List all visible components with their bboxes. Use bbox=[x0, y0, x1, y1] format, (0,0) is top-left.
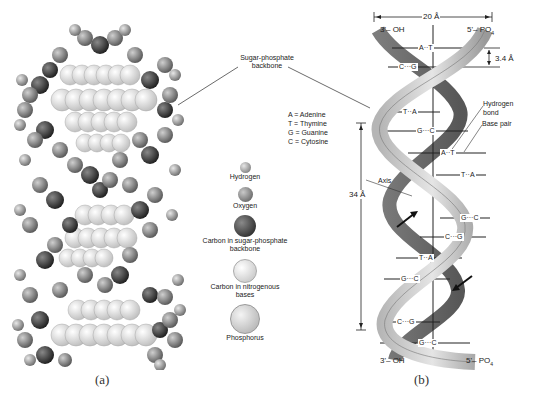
top-right-end-text: 5'– PO bbox=[467, 25, 491, 34]
hydrogen-bond-line1: Hydrogen bbox=[483, 99, 513, 108]
axis-label: Axis bbox=[378, 176, 391, 185]
key-cytosine: C = Cytosine bbox=[288, 137, 328, 146]
top-left-end-label: 3'– OH bbox=[380, 25, 405, 34]
rise-dimension-label: 3.4 Å bbox=[495, 54, 514, 63]
base-key: A = Adenine T = Thymine G = Guanine C = … bbox=[288, 110, 328, 146]
key-adenine: A = Adenine bbox=[288, 110, 328, 119]
hydrogen-bond-line2: bond bbox=[483, 108, 513, 117]
bottom-right-end-text: 5'– PO bbox=[466, 356, 490, 365]
base-pair-2: C···G bbox=[398, 63, 418, 71]
base-pair-3: T··A bbox=[402, 108, 418, 116]
hydrogen-bond-label: Hydrogen bond bbox=[483, 99, 513, 117]
key-thymine: T = Thymine bbox=[288, 119, 328, 128]
top-right-end-sub: 4 bbox=[491, 30, 494, 36]
pitch-dimension-label: 34 Å bbox=[349, 190, 365, 199]
top-right-end-label: 5'– PO4 bbox=[467, 25, 494, 38]
key-guanine: G = Guanine bbox=[288, 128, 328, 137]
double-helix-ribbon-diagram bbox=[0, 0, 533, 397]
base-pair-8: C···G bbox=[444, 233, 464, 241]
base-pair-7: G···C bbox=[460, 214, 480, 222]
bottom-right-end-label: 5'– PO4 bbox=[466, 356, 493, 369]
base-pair-6: T··A bbox=[460, 171, 476, 179]
base-pair-12: G···C bbox=[418, 339, 438, 347]
base-pair-9: T··A bbox=[418, 254, 434, 262]
bottom-left-end-label: 3'– OH bbox=[380, 356, 405, 365]
base-pair-10: G···C bbox=[400, 275, 420, 283]
base-pair-5: A··T bbox=[440, 149, 456, 157]
base-pair-label: Base pair bbox=[482, 119, 512, 128]
width-dimension-label: 20 Å bbox=[422, 13, 440, 21]
base-pair-4: G···C bbox=[416, 127, 436, 135]
base-pair-11: C···G bbox=[396, 318, 416, 326]
caption-b: (b) bbox=[414, 372, 429, 388]
bottom-right-end-sub: 4 bbox=[490, 361, 493, 367]
base-pair-1: A··T bbox=[418, 44, 434, 52]
